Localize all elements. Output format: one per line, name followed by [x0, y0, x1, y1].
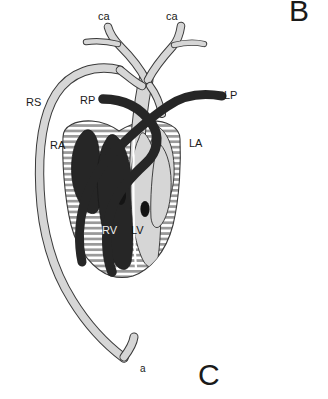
label-lv: LV: [131, 225, 144, 236]
label-ra: RA: [50, 140, 65, 151]
label-lp: LP: [224, 90, 237, 101]
label-a: a: [140, 364, 146, 374]
label-ca-left: ca: [98, 11, 110, 22]
panel-letter-c: C: [198, 360, 220, 390]
label-rp: RP: [80, 95, 95, 106]
left-valve-ostium: [140, 201, 149, 217]
panel-letter-b: B: [289, 0, 309, 26]
label-la: LA: [189, 138, 202, 149]
heart-vessel-diagram: [0, 0, 328, 399]
label-rv: RV: [102, 225, 117, 236]
label-ca-right: ca: [166, 11, 178, 22]
anatomical-figure: ca ca RS RP LP RA LA RV LV a B C: [0, 0, 328, 399]
dorsal-aorta-vessel: [124, 337, 134, 357]
label-rs: RS: [26, 97, 41, 108]
